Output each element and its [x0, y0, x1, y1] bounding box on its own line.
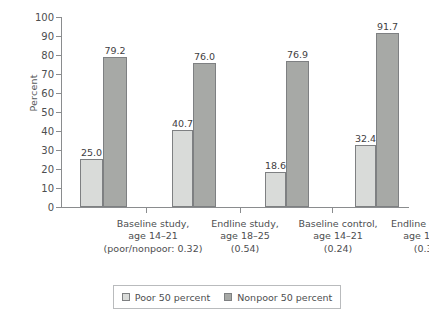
y-tick-label: 40: [41, 126, 54, 137]
y-tick-label: 90: [41, 31, 54, 42]
bar-poor: 32.4: [355, 145, 376, 207]
y-tick-mark: [56, 169, 61, 170]
y-axis-line: [61, 17, 62, 208]
y-tick-mark: [56, 207, 61, 208]
bar-value-label: 18.6: [265, 160, 286, 171]
y-tick-mark: [56, 74, 61, 75]
legend-swatch-nonpoor: [224, 293, 232, 301]
legend-item: Nonpoor 50 percent: [224, 292, 332, 303]
y-tick-mark: [56, 112, 61, 113]
y-tick-label: 10: [41, 183, 54, 194]
bar-poor: 18.6: [265, 172, 286, 207]
x-axis-group-label-line: (0.35): [348, 243, 429, 255]
y-tick-label: 60: [41, 88, 54, 99]
bar-nonpoor: 79.2: [103, 57, 127, 207]
x-axis-line: [61, 207, 409, 208]
y-tick-label: 80: [41, 50, 54, 61]
bar-value-label: 91.7: [377, 21, 398, 32]
x-tick-mark: [332, 208, 333, 213]
bar-value-label: 79.2: [104, 45, 125, 56]
bar-poor: 40.7: [172, 130, 193, 207]
y-tick-mark: [56, 131, 61, 132]
x-axis-group-label-line: age 18–25: [348, 230, 429, 242]
plot-area: 0102030405060708090100 25.079.240.776.01…: [61, 17, 409, 208]
y-tick-label: 70: [41, 69, 54, 80]
y-tick-mark: [56, 36, 61, 37]
x-tick-mark: [146, 208, 147, 213]
bar-value-label: 76.9: [287, 49, 308, 60]
bar-value-label: 25.0: [81, 147, 102, 158]
legend-swatch-poor: [122, 293, 130, 301]
bar-nonpoor: 91.7: [376, 33, 399, 207]
bar-chart: Percent 0102030405060708090100 25.079.24…: [0, 0, 429, 320]
y-tick-mark: [56, 17, 61, 18]
legend-item: Poor 50 percent: [122, 292, 210, 303]
bar-value-label: 40.7: [172, 118, 193, 129]
y-tick-label: 20: [41, 164, 54, 175]
x-tick-mark: [240, 208, 241, 213]
bar-nonpoor: 76.0: [193, 63, 216, 207]
legend: Poor 50 percentNonpoor 50 percent: [113, 285, 341, 309]
y-tick-mark: [56, 150, 61, 151]
x-axis-group-label: Endline control,age 18–25(0.35): [348, 218, 429, 255]
bar-poor: 25.0: [80, 159, 103, 207]
legend-label: Poor 50 percent: [135, 292, 210, 303]
y-tick-label: 0: [48, 202, 54, 213]
bar-nonpoor: 76.9: [286, 61, 309, 207]
y-tick-mark: [56, 55, 61, 56]
y-tick-mark: [56, 188, 61, 189]
y-tick-label: 30: [41, 145, 54, 156]
legend-label: Nonpoor 50 percent: [237, 292, 332, 303]
bar-value-label: 32.4: [355, 133, 376, 144]
bar-value-label: 76.0: [194, 51, 215, 62]
y-tick-label: 50: [41, 107, 54, 118]
x-axis-group-label-line: Endline control,: [348, 218, 429, 230]
y-tick-label: 100: [35, 12, 54, 23]
y-tick-mark: [56, 93, 61, 94]
